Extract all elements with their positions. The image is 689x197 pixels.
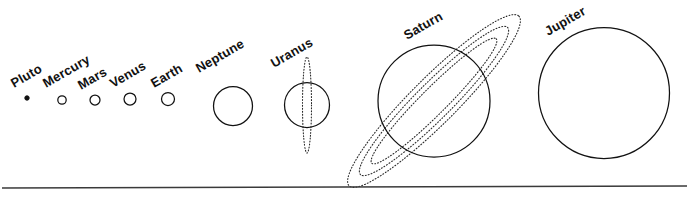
planet-size-diagram: PlutoMercuryMarsVenusEarthNeptuneUranusS… — [0, 0, 689, 197]
planet-group-earth: Earth — [148, 60, 185, 105]
planet-group-venus: Venus — [107, 58, 149, 105]
planet-body-jupiter[interactable] — [539, 28, 670, 159]
baseline-rule — [2, 186, 687, 188]
ring-saturn-3 — [363, 30, 506, 173]
planet-label-pluto: Pluto — [8, 61, 45, 91]
ring-saturn-2 — [348, 15, 521, 188]
ring-uranus-1 — [303, 57, 312, 153]
planet-body-mars[interactable] — [90, 95, 100, 105]
planet-body-earth[interactable] — [162, 93, 175, 106]
planet-body-saturn[interactable] — [378, 45, 490, 157]
planet-body-pluto[interactable] — [25, 96, 29, 100]
planet-label-venus: Venus — [107, 58, 149, 91]
planet-label-saturn: Saturn — [401, 8, 445, 42]
planet-body-uranus[interactable] — [285, 83, 330, 128]
planet-label-neptune: Neptune — [193, 36, 247, 76]
planet-label-uranus: Uranus — [268, 35, 315, 71]
planet-group-jupiter: Jupiter — [539, 3, 670, 158]
ring-saturn-1 — [333, 0, 535, 197]
planet-label-earth: Earth — [148, 60, 185, 90]
planet-group-neptune: Neptune — [193, 36, 253, 126]
planet-label-jupiter: Jupiter — [542, 3, 588, 38]
planet-body-mercury[interactable] — [58, 96, 66, 104]
diagram-canvas: PlutoMercuryMarsVenusEarthNeptuneUranusS… — [0, 0, 689, 197]
planet-body-venus[interactable] — [124, 93, 136, 105]
planet-group-saturn: Saturn — [333, 0, 535, 197]
planet-group-pluto: Pluto — [8, 61, 45, 100]
planet-body-neptune[interactable] — [214, 87, 253, 126]
planet-group-uranus: Uranus — [268, 35, 330, 153]
